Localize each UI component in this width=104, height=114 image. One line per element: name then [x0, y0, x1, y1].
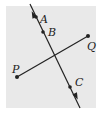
point-b [41, 30, 45, 34]
label-b: B [47, 26, 56, 39]
line-abc [30, 4, 80, 108]
label-q: Q [87, 40, 96, 53]
point-q [86, 34, 90, 38]
label-p: P [11, 63, 20, 76]
point-c [68, 85, 72, 89]
label-a: A [39, 13, 48, 26]
label-c: C [75, 76, 84, 89]
geometry-diagram: A B C P Q [0, 0, 104, 114]
point-a [34, 15, 38, 19]
segment-pq [17, 36, 88, 77]
